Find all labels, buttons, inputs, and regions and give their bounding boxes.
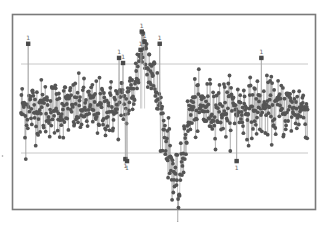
data-point	[146, 85, 150, 89]
data-point	[111, 126, 115, 130]
data-point	[228, 74, 232, 78]
data-point	[118, 101, 122, 105]
data-point	[183, 157, 187, 161]
data-point	[255, 132, 259, 136]
data-point	[54, 86, 58, 90]
data-point	[270, 81, 274, 85]
data-point	[95, 115, 99, 119]
data-point	[57, 112, 61, 116]
data-point	[183, 136, 187, 140]
data-point	[283, 97, 287, 101]
data-point	[229, 128, 233, 132]
data-point	[94, 79, 98, 83]
data-point	[132, 87, 136, 91]
data-point	[104, 128, 108, 132]
data-point	[233, 122, 237, 126]
data-point	[112, 118, 116, 122]
data-point	[42, 101, 46, 105]
data-point	[80, 123, 84, 127]
data-point	[175, 178, 179, 182]
data-point	[282, 133, 286, 137]
data-point	[256, 110, 260, 114]
data-point	[177, 206, 181, 210]
data-point	[135, 87, 139, 91]
data-point	[269, 75, 273, 79]
data-point	[229, 86, 233, 90]
data-point	[260, 111, 264, 115]
data-point	[51, 118, 55, 122]
data-point	[77, 104, 81, 108]
data-point	[274, 132, 278, 136]
data-point	[60, 112, 64, 116]
data-point	[78, 95, 82, 99]
data-point	[196, 129, 200, 133]
data-point	[85, 119, 89, 123]
data-point	[228, 121, 232, 125]
data-point	[245, 138, 249, 142]
data-point	[101, 123, 105, 127]
data-point	[49, 124, 53, 128]
data-point	[69, 86, 73, 90]
data-point	[62, 89, 66, 93]
flagged-point	[158, 42, 162, 46]
data-point	[190, 121, 194, 125]
data-point	[191, 100, 195, 104]
data-point	[294, 100, 298, 104]
data-point	[192, 105, 196, 109]
data-point	[108, 86, 112, 90]
data-point	[224, 135, 228, 139]
flag-label: 1	[235, 164, 239, 171]
data-point	[287, 108, 291, 112]
data-point	[182, 171, 186, 175]
data-point	[38, 130, 42, 134]
data-point	[210, 127, 214, 131]
data-point	[213, 137, 217, 141]
data-point	[260, 129, 264, 133]
flagged-point	[234, 159, 238, 163]
data-point	[179, 141, 183, 145]
data-point	[306, 108, 310, 112]
data-point	[171, 191, 175, 195]
data-point	[71, 105, 75, 109]
data-point	[243, 95, 247, 99]
data-point	[196, 83, 200, 87]
data-point	[20, 93, 24, 97]
data-point	[93, 100, 97, 104]
data-point	[100, 105, 104, 109]
data-point	[280, 107, 284, 111]
data-point	[41, 93, 45, 97]
data-point	[99, 102, 103, 106]
data-point	[93, 92, 97, 96]
data-point	[151, 74, 155, 78]
data-point	[251, 127, 255, 131]
data-point	[131, 107, 135, 111]
data-point	[65, 117, 69, 121]
data-point	[268, 98, 272, 102]
data-point	[219, 121, 223, 125]
data-point	[171, 162, 175, 166]
data-point	[247, 144, 251, 148]
data-point	[127, 109, 131, 113]
data-point	[284, 124, 288, 128]
data-point	[273, 126, 277, 130]
data-point	[240, 113, 244, 117]
data-point	[122, 117, 126, 121]
data-point	[24, 114, 28, 118]
data-point	[277, 114, 281, 118]
data-point	[98, 76, 102, 80]
data-point	[160, 105, 164, 109]
data-point	[289, 129, 293, 133]
data-point	[271, 103, 275, 107]
data-point	[86, 124, 90, 128]
data-point	[74, 102, 78, 106]
data-point	[253, 87, 257, 91]
data-point	[136, 65, 140, 69]
data-point	[129, 83, 133, 87]
data-point	[52, 114, 56, 118]
data-point	[163, 124, 167, 128]
flag-label: 1	[143, 32, 147, 39]
data-point	[87, 112, 91, 116]
data-point	[279, 97, 283, 101]
data-point	[155, 71, 159, 75]
data-point	[164, 149, 168, 153]
